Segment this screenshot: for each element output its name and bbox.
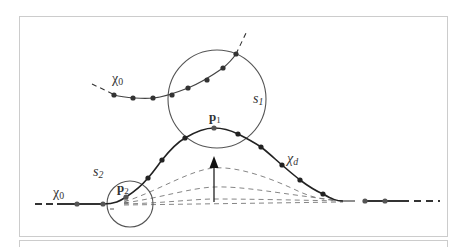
label-s2: s2 [93, 165, 103, 180]
upper-curve-dashed-left [92, 84, 113, 94]
diagram-svg [0, 0, 466, 247]
lower-curve-chi-d [103, 128, 343, 204]
circle-s2 [107, 181, 153, 227]
deformation-arrow-icon [210, 156, 219, 202]
circle-s1 [168, 50, 266, 148]
label-p2: p2 [117, 181, 129, 196]
label-p1: p1 [209, 110, 221, 125]
label-s2-sub: 2 [98, 169, 103, 180]
label-chi0-top: χ0 [112, 72, 123, 87]
upper-curve-dashed-right [236, 31, 247, 54]
label-s1-sub: 1 [258, 96, 263, 107]
label-chi0-top-sub: 0 [118, 76, 123, 87]
figure-canvas: χ0 s1 p1 χd s2 p2 χ0 [0, 0, 466, 247]
label-chi-d-sub: d [293, 156, 298, 167]
label-chi0-bottom-sub: 0 [59, 190, 64, 201]
label-p1-sub: 1 [216, 115, 221, 125]
label-p2-sub: 2 [124, 186, 129, 196]
label-s1: s1 [253, 92, 263, 107]
upper-curve-chi0 [114, 54, 236, 98]
label-chi-d: χd [287, 152, 298, 167]
label-chi0-bottom: χ0 [53, 186, 64, 201]
